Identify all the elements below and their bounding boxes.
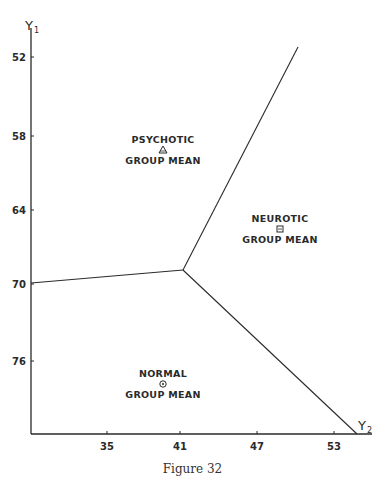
x-axis-title: Y 2 — [357, 418, 372, 435]
svg-text:2: 2 — [367, 426, 372, 435]
y-axis-title: Y 1 — [24, 18, 39, 35]
discriminant-chart: Y 1 Y 2 52 58 64 70 76 35 41 47 53 PSYCH… — [0, 0, 385, 482]
triangle-marker-icon — [159, 146, 167, 153]
normal-group-mean: NORMAL GROUP MEAN — [125, 368, 200, 400]
svg-text:Y: Y — [357, 418, 366, 433]
boundary-psychotic-normal — [31, 270, 183, 283]
svg-text:NORMAL: NORMAL — [139, 368, 187, 379]
svg-text:Y: Y — [24, 18, 33, 33]
y-tick-64: 64 — [12, 205, 26, 216]
svg-text:GROUP MEAN: GROUP MEAN — [125, 155, 200, 166]
y-tick-52: 52 — [12, 52, 26, 63]
boundary-neurotic-normal — [183, 270, 357, 434]
y-tick-70: 70 — [12, 279, 26, 290]
psychotic-group-mean: PSYCHOTIC GROUP MEAN — [125, 134, 200, 166]
neurotic-group-mean: NEUROTIC GROUP MEAN — [242, 213, 317, 245]
svg-text:GROUP MEAN: GROUP MEAN — [125, 389, 200, 400]
svg-text:NEUROTIC: NEUROTIC — [252, 213, 309, 224]
figure-caption: Figure 32 — [0, 462, 385, 476]
svg-text:GROUP MEAN: GROUP MEAN — [242, 234, 317, 245]
y-tick-58: 58 — [12, 131, 26, 142]
x-tick-53: 53 — [327, 441, 341, 452]
x-tick-35: 35 — [100, 441, 114, 452]
x-tick-41: 41 — [173, 441, 187, 452]
x-tick-47: 47 — [250, 441, 264, 452]
y-tick-76: 76 — [12, 356, 26, 367]
svg-text:1: 1 — [34, 26, 39, 35]
svg-text:PSYCHOTIC: PSYCHOTIC — [131, 134, 194, 145]
